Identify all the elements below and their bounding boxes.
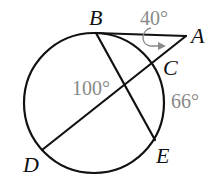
circle (24, 33, 164, 173)
point-label-b: B (89, 5, 102, 30)
point-label-c: C (163, 55, 178, 80)
geometry-diagram: BACDE 40°100°66° (0, 0, 216, 188)
measure-label-arc-BD: 100° (72, 77, 110, 99)
measure-label-angle-A: 40° (140, 7, 168, 29)
point-label-a: A (189, 23, 205, 48)
secant-line-ad (42, 36, 186, 150)
point-label-e: E (155, 143, 170, 168)
point-label-d: D (22, 152, 39, 177)
angle-arrow-icon (143, 28, 166, 50)
measure-label-arc-CE: 66° (171, 90, 199, 112)
